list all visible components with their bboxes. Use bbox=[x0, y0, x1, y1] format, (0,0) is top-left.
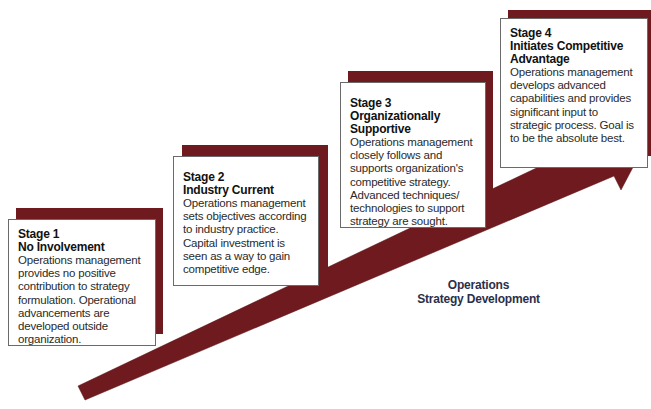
stage-4-description: Operations management develops advanced … bbox=[510, 66, 639, 145]
stage-1-box: Stage 1 No Involvement Operations manage… bbox=[8, 219, 156, 346]
stage-1-name: No Involvement bbox=[18, 241, 147, 254]
stage-2-box: Stage 2 Industry Current Operations mana… bbox=[173, 156, 319, 286]
stage-3-description: Operations management closely follows an… bbox=[350, 136, 477, 228]
stage-2-name: Industry Current bbox=[183, 184, 310, 197]
stage-1-description: Operations management provides no positi… bbox=[18, 254, 147, 346]
axis-label-line-1: Operations bbox=[406, 278, 551, 292]
stage-2-description: Operations management sets objectives ac… bbox=[183, 197, 310, 276]
axis-label: Operations Strategy Development bbox=[406, 278, 551, 306]
stage-4-box: Stage 4 Initiates Competitive Advantage … bbox=[500, 18, 648, 168]
stage-4-name: Initiates Competitive Advantage bbox=[510, 40, 639, 66]
axis-label-line-2: Strategy Development bbox=[406, 292, 551, 306]
stage-3-name: Organizationally Supportive bbox=[350, 110, 477, 136]
stage-3-box: Stage 3 Organizationally Supportive Oper… bbox=[340, 82, 486, 228]
